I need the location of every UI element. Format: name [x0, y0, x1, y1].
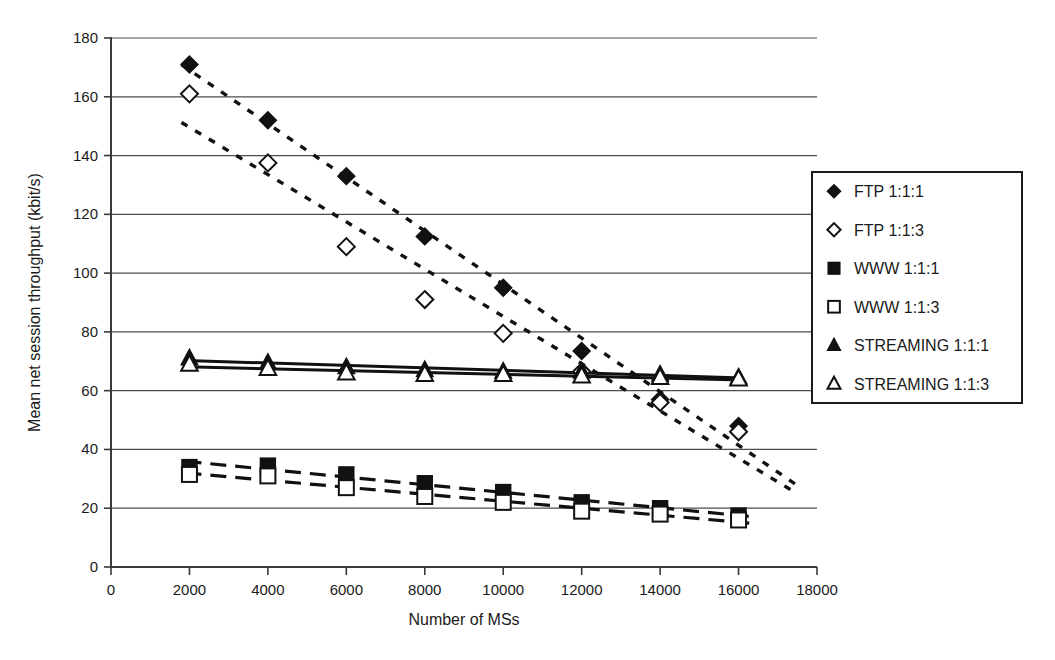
x-tick-label-0: 0 — [107, 581, 115, 598]
legend-label-5[interactable]: STREAMING 1:1:3 — [854, 376, 989, 393]
data-point-marker — [260, 468, 275, 483]
throughput-line-chart: 020406080100120140160180 020004000600080… — [0, 0, 1055, 660]
data-point-marker — [417, 489, 432, 504]
y-tick-label-80: 80 — [81, 323, 98, 340]
data-point-marker — [574, 504, 589, 519]
y-tick-label-20: 20 — [81, 499, 98, 516]
y-axis-title: Mean net session throughput (kbit/s) — [26, 173, 43, 432]
legend-label-4[interactable]: STREAMING 1:1:1 — [854, 337, 989, 354]
y-tick-label-60: 60 — [81, 382, 98, 399]
legend-label-2[interactable]: WWW 1:1:1 — [854, 260, 939, 277]
y-tick-label-40: 40 — [81, 440, 98, 457]
x-tick-label-8000: 8000 — [408, 581, 441, 598]
x-tick-label-14000: 14000 — [639, 581, 681, 598]
x-tick-label-2000: 2000 — [173, 581, 206, 598]
data-point-marker — [731, 512, 746, 527]
legend-label-1[interactable]: FTP 1:1:3 — [854, 222, 924, 239]
y-tick-label-100: 100 — [73, 264, 98, 281]
y-tick-label-120: 120 — [73, 205, 98, 222]
y-tick-label-160: 160 — [73, 88, 98, 105]
y-tick-label-140: 140 — [73, 147, 98, 164]
x-tick-label-16000: 16000 — [718, 581, 760, 598]
legend-label-3[interactable]: WWW 1:1:3 — [854, 299, 939, 316]
x-tick-label-6000: 6000 — [330, 581, 363, 598]
x-axis-title: Number of MSs — [408, 611, 519, 628]
chart-figure: 020406080100120140160180 020004000600080… — [0, 0, 1055, 660]
x-tick-label-10000: 10000 — [482, 581, 524, 598]
x-tick-label-12000: 12000 — [561, 581, 603, 598]
legend-marker-square-open — [828, 301, 840, 313]
y-tick-label-180: 180 — [73, 29, 98, 46]
x-tick-label-18000: 18000 — [796, 581, 838, 598]
y-tick-label-0: 0 — [90, 558, 98, 575]
data-point-marker — [496, 495, 511, 510]
legend-marker-square-filled — [828, 262, 840, 274]
legend-box — [812, 172, 1022, 403]
chart-legend: FTP 1:1:1FTP 1:1:3WWW 1:1:1WWW 1:1:3STRE… — [812, 172, 1022, 403]
x-tick-label-4000: 4000 — [251, 581, 284, 598]
data-point-marker — [182, 467, 197, 482]
data-point-marker — [339, 480, 354, 495]
legend-label-0[interactable]: FTP 1:1:1 — [854, 183, 924, 200]
data-point-marker — [653, 507, 668, 522]
